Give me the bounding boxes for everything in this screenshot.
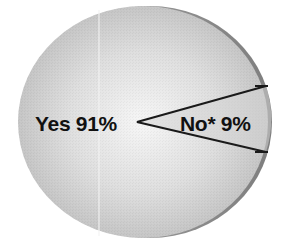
- pie-chart: Yes 91% No* 9%: [0, 0, 296, 251]
- slice-label-yes: Yes 91%: [35, 113, 117, 134]
- slice-label-no: No* 9%: [180, 113, 251, 134]
